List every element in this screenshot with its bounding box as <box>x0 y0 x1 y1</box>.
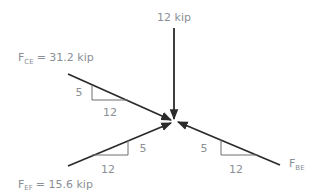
force-f-ef: 5 12 FEF= 15.6 kip <box>18 123 171 192</box>
f-ce-subscript: CE <box>24 58 33 66</box>
free-body-diagram: 12 kip FCE= 31.2 kip 5 12 5 12 FEF= 15.6… <box>0 0 324 193</box>
f-ce-run: 12 <box>103 106 117 119</box>
f-ef-value: = 15.6 kip <box>36 178 93 191</box>
f-ef-label: FEF= 15.6 kip <box>18 178 93 192</box>
f-ce-value: = 31.2 kip <box>37 51 94 64</box>
f-ef-rise: 5 <box>140 142 147 155</box>
force-f-ce: FCE= 31.2 kip 5 12 <box>18 51 171 120</box>
f-be-rise: 5 <box>201 142 208 155</box>
f-ce-rise: 5 <box>76 86 83 99</box>
f-be-subscript: BE <box>295 164 304 172</box>
f-ce-label: FCE= 31.2 kip <box>18 51 94 66</box>
f-ef-run: 12 <box>101 163 115 176</box>
f-ef-subscript: EF <box>24 184 32 192</box>
f-be-run: 12 <box>229 163 243 176</box>
f-ef-arrow <box>68 123 171 166</box>
force-f-be: 5 12 FBE <box>178 122 305 176</box>
vertical-load: 12 kip <box>157 11 191 119</box>
f-be-label: FBE <box>289 157 305 172</box>
vertical-load-label: 12 kip <box>157 11 191 24</box>
f-be-arrow <box>178 122 280 165</box>
f-ce-arrow <box>68 74 171 120</box>
